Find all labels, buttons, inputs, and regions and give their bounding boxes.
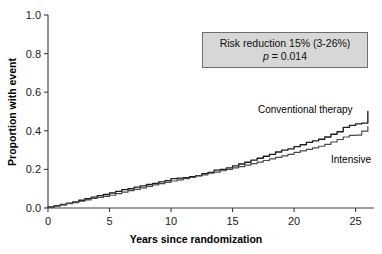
- x-tick-label: 0: [45, 215, 51, 227]
- x-tick-label: 5: [106, 215, 112, 227]
- y-axis-ticks: 0.00.20.40.60.81.0: [26, 9, 48, 214]
- series-curve-conventional-therapy: [48, 112, 368, 208]
- annotation-line-risk-reduction: Risk reduction 15% (3-26%): [220, 37, 351, 50]
- y-tick-label: 1.0: [26, 9, 41, 21]
- y-axis: 0.00.20.40.60.81.0: [26, 9, 48, 214]
- x-tick-label: 15: [226, 215, 238, 227]
- x-tick-label: 20: [288, 215, 300, 227]
- y-tick-label: 0.6: [26, 86, 41, 98]
- y-tick-label: 0.4: [26, 125, 41, 137]
- x-axis-ticks: 0510152025: [45, 208, 362, 227]
- p-value-text: = 0.014: [269, 50, 307, 62]
- risk-reduction-annotation: Risk reduction 15% (3-26%) p = 0.014: [202, 32, 368, 68]
- annotation-line-pvalue: p = 0.014: [263, 50, 307, 63]
- data-series-group: [48, 112, 368, 208]
- series-label-conventional: Conventional therapy: [258, 104, 353, 115]
- series-label-intensive: Intensive: [331, 154, 371, 165]
- x-axis: 0510152025: [45, 208, 374, 227]
- y-tick-label: 0.2: [26, 163, 41, 175]
- y-tick-label: 0.8: [26, 48, 41, 60]
- x-tick-label: 10: [165, 215, 177, 227]
- x-axis-title: Years since randomization: [130, 233, 262, 245]
- y-axis-title: Proportion with event: [6, 58, 18, 166]
- x-tick-label: 25: [349, 215, 361, 227]
- y-tick-label: 0.0: [26, 202, 41, 214]
- survival-curve-chart: 0.00.20.40.60.81.0 0510152025 Proportion…: [0, 0, 382, 254]
